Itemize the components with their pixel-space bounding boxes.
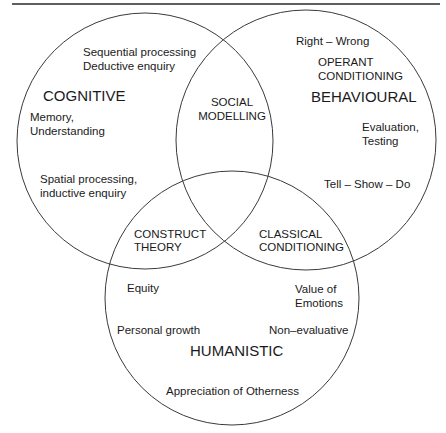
behavioural-item-operant-1: OPERANT: [318, 56, 374, 68]
humanistic-item-emotions: Emotions: [295, 297, 343, 309]
humanistic-item-non-evaluative: Non–evaluative: [269, 324, 348, 336]
overlap-classical-conditioning-line1: CLASSICAL: [259, 228, 323, 240]
cognitive-title: COGNITIVE: [43, 87, 126, 104]
cognitive-item-deductive: Deductive enquiry: [83, 60, 175, 72]
venn-diagram: Sequential processing Deductive enquiry …: [0, 0, 446, 433]
behavioural-item-tell-show-do: Tell – Show – Do: [324, 178, 410, 190]
humanistic-title: HUMANISTIC: [190, 342, 284, 359]
behavioural-item-testing: Testing: [362, 135, 398, 147]
behavioural-title: BEHAVIOURAL: [311, 88, 417, 105]
humanistic-item-personal-growth: Personal growth: [117, 324, 200, 336]
overlap-construct-theory-line2: THEORY: [134, 241, 182, 253]
humanistic-item-value-of: Value of: [295, 283, 337, 295]
cognitive-item-inductive: inductive enquiry: [40, 187, 127, 199]
overlap-construct-theory-line1: CONSTRUCT: [134, 228, 206, 240]
behavioural-item-right-wrong: Right – Wrong: [296, 35, 369, 47]
overlap-social-modelling-line2: MODELLING: [198, 110, 266, 122]
humanistic-item-otherness: Appreciation of Otherness: [166, 385, 299, 397]
cognitive-item-understanding: Understanding: [30, 125, 105, 137]
cognitive-item-sequential: Sequential processing: [83, 46, 196, 58]
cognitive-item-memory: Memory,: [30, 111, 74, 123]
behavioural-item-operant-2: CONDITIONING: [318, 70, 403, 82]
behavioural-item-evaluation: Evaluation,: [362, 121, 419, 133]
cognitive-item-spatial: Spatial processing,: [40, 173, 137, 185]
humanistic-item-equity: Equity: [127, 282, 159, 294]
overlap-social-modelling-line1: SOCIAL: [211, 96, 254, 108]
overlap-classical-conditioning-line2: CONDITIONING: [259, 241, 344, 253]
